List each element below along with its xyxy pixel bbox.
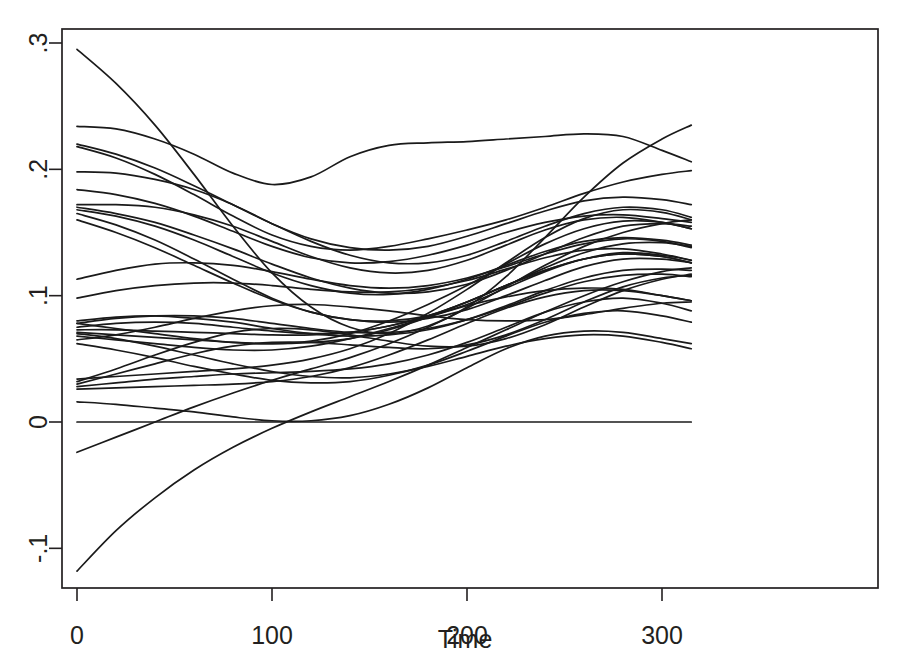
y-tick-label: .1: [24, 285, 52, 306]
data-curve: [77, 220, 691, 322]
data-curve: [77, 210, 691, 295]
y-tick-label: .3: [24, 33, 52, 54]
data-curve: [77, 126, 691, 184]
data-curve: [77, 214, 691, 322]
data-curve: [77, 268, 691, 571]
axis-labels: -.10.1.2.30100200300Time: [24, 33, 683, 653]
line-chart-plot: -.10.1.2.30100200300Time: [0, 0, 906, 669]
y-tick-label: 0: [24, 415, 52, 429]
x-tick-label: 0: [70, 621, 84, 649]
y-tick-label: -.1: [24, 534, 52, 563]
x-tick-label: 100: [251, 621, 293, 649]
data-curves: [77, 49, 691, 571]
y-tick-label: .2: [24, 159, 52, 180]
x-tick-label: 300: [641, 621, 683, 649]
x-axis-title: Time: [438, 625, 493, 653]
figure-container: -.10.1.2.30100200300Time: [0, 0, 906, 669]
data-curve: [77, 49, 691, 333]
data-curve: [77, 144, 691, 250]
